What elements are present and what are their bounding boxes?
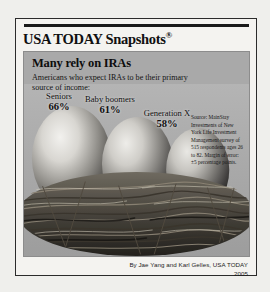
category-group-baby-boomers: Baby boomers 61% [84,95,136,116]
chart-subhead: Americans who expect IRAs to be their pr… [32,73,204,93]
snapshot-card: USA TODAY Snapshots® [15,18,257,276]
chart-headline: Many rely on IRAs [32,57,241,71]
masthead-rule [24,24,249,27]
registered-trademark-icon: ® [166,30,172,40]
byline-credit: By Jae Yang and Karl Gelles, USA TODAY [16,261,248,270]
masthead-title: USA TODAY Snapshots® [23,30,250,49]
byline: By Jae Yang and Karl Gelles, USA TODAY 2… [16,261,248,279]
category-label: Baby boomers [84,95,136,104]
source-note: Source: MainStay Investments of New York… [191,114,245,167]
category-group-seniors: Seniors 66% [32,92,86,113]
category-value: 66% [32,101,86,113]
category-value: 61% [84,104,136,116]
masthead-brand: USA TODAY Snapshots [23,31,166,47]
headline-block: Many rely on IRAs Americans who expect I… [24,52,249,92]
masthead: USA TODAY Snapshots® [16,19,256,49]
chart-panel: Many rely on IRAs Americans who expect I… [23,51,250,257]
byline-year: 2005 [16,270,248,279]
category-label: Seniors [32,92,86,101]
